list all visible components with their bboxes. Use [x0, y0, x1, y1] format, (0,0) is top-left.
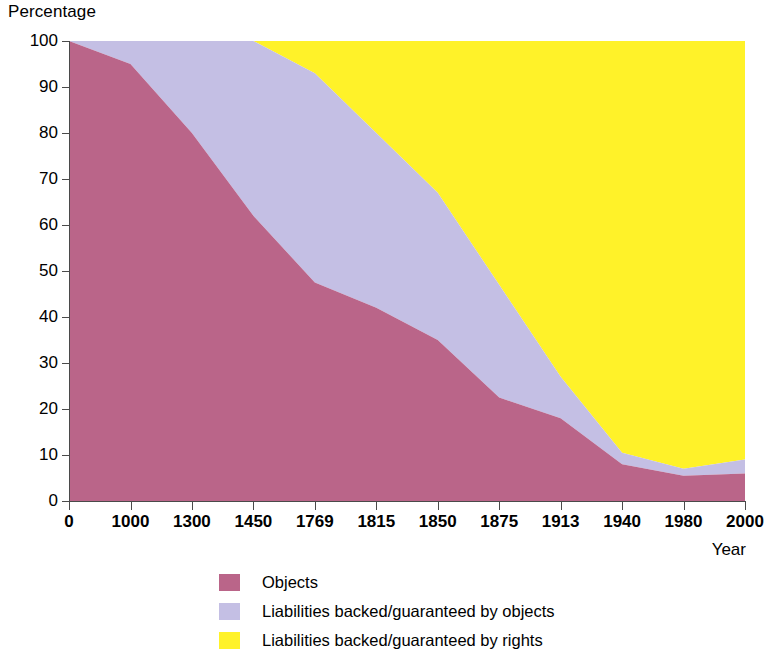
legend-item-liabilities-objects: Liabilities backed/guaranteed by objects [219, 597, 739, 626]
y-tick-mark [62, 455, 69, 456]
x-tick-mark [69, 502, 70, 510]
x-tick-mark [745, 502, 746, 510]
x-tick-mark [438, 502, 439, 510]
y-tick-mark [62, 271, 69, 272]
legend-swatch-objects [219, 574, 240, 591]
chart-legend: Objects Liabilities backed/guaranteed by… [219, 568, 739, 655]
x-tick-label: 2000 [705, 513, 768, 530]
legend-swatch-liabilities-objects [219, 603, 240, 620]
y-tick-label: 0 [0, 492, 58, 509]
legend-swatch-liabilities-rights [219, 632, 240, 649]
y-tick-label: 30 [0, 354, 58, 371]
legend-item-objects: Objects [219, 568, 739, 597]
y-tick-mark [62, 501, 69, 502]
y-tick-mark [62, 409, 69, 410]
y-tick-label: 40 [0, 308, 58, 325]
y-tick-label: 20 [0, 400, 58, 417]
x-tick-mark [192, 502, 193, 510]
y-tick-mark [62, 179, 69, 180]
y-tick-mark [62, 133, 69, 134]
plot-area [69, 41, 745, 501]
y-tick-label: 90 [0, 78, 58, 95]
x-tick-mark [315, 502, 316, 510]
x-tick-mark [684, 502, 685, 510]
x-tick-mark [622, 502, 623, 510]
y-tick-label: 70 [0, 170, 58, 187]
y-tick-mark [62, 363, 69, 364]
y-tick-mark [62, 87, 69, 88]
y-axis-title: Percentage [8, 2, 96, 22]
y-tick-mark [62, 41, 69, 42]
x-tick-mark [253, 502, 254, 510]
y-tick-label: 100 [0, 32, 58, 49]
legend-label-liabilities-rights: Liabilities backed/guaranteed by rights [262, 631, 543, 650]
y-axis-line [69, 41, 70, 502]
x-tick-mark [499, 502, 500, 510]
stacked-area-svg [69, 41, 745, 501]
y-tick-mark [62, 317, 69, 318]
x-tick-mark [561, 502, 562, 510]
y-tick-label: 10 [0, 446, 58, 463]
legend-label-objects: Objects [262, 573, 318, 592]
x-tick-mark [376, 502, 377, 510]
x-axis-line [69, 501, 746, 502]
x-tick-mark [131, 502, 132, 510]
y-tick-label: 60 [0, 216, 58, 233]
y-tick-label: 80 [0, 124, 58, 141]
legend-label-liabilities-objects: Liabilities backed/guaranteed by objects [262, 602, 555, 621]
x-axis-title: Year [712, 540, 746, 560]
y-tick-mark [62, 225, 69, 226]
legend-item-liabilities-rights: Liabilities backed/guaranteed by rights [219, 626, 739, 655]
y-tick-label: 50 [0, 262, 58, 279]
